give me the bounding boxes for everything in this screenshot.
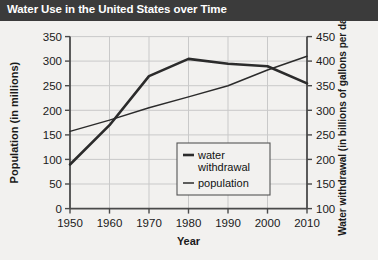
x-tick-label: 1970: [136, 217, 162, 229]
x-tick-label: 1980: [176, 217, 202, 229]
right-tick-label: 400: [316, 55, 335, 67]
legend-label-water-withdrawal-line2: withdrawal: [197, 161, 250, 173]
left-tick-label: 350: [43, 31, 62, 43]
right-tick-label: 150: [316, 178, 335, 190]
right-tick-label: 350: [316, 80, 335, 92]
left-tick-label: 200: [43, 105, 62, 117]
right-tick-labels: 450 400 350 300 250 200 150 100: [316, 31, 335, 215]
right-tick-label: 450: [316, 31, 335, 43]
chart-legend: water withdrawal population: [177, 143, 270, 195]
left-tick-label: 100: [43, 154, 62, 166]
x-tick-label: 1990: [215, 217, 241, 229]
x-tick-labels: 1950 1960 1970 1980 1990 2000 2010: [57, 217, 320, 229]
right-tick-label: 200: [316, 154, 335, 166]
chart-area: 350 300 250 200 150 100 50 0 450 400 350…: [0, 21, 378, 260]
title-bar: Water Use in the United States over Time: [0, 0, 378, 21]
left-tick-label: 0: [56, 203, 62, 215]
page-title: Water Use in the United States over Time: [7, 3, 227, 15]
legend-label-population: population: [198, 177, 249, 189]
right-axis-title: Water withdrawal (in billions of gallons…: [337, 21, 348, 236]
x-tick-label: 2010: [294, 217, 320, 229]
x-tick-label: 2000: [255, 217, 281, 229]
chart-screenshot: Water Use in the United States over Time: [0, 0, 378, 260]
left-tick-labels: 350 300 250 200 150 100 50 0: [43, 31, 62, 215]
x-tick-label: 1960: [97, 217, 123, 229]
x-axis-title: Year: [177, 235, 201, 247]
x-tick-label: 1950: [57, 217, 83, 229]
line-chart: 350 300 250 200 150 100 50 0 450 400 350…: [0, 21, 378, 260]
left-axis-title: Population (in millions): [8, 61, 20, 183]
left-tick-label: 50: [49, 178, 62, 190]
right-tick-label: 300: [316, 105, 335, 117]
left-tick-label: 150: [43, 129, 62, 141]
left-tick-label: 300: [43, 55, 62, 67]
legend-label-water-withdrawal-line1: water: [197, 149, 225, 161]
right-tick-label: 250: [316, 129, 335, 141]
left-tick-label: 250: [43, 80, 62, 92]
right-tick-label: 100: [316, 203, 335, 215]
